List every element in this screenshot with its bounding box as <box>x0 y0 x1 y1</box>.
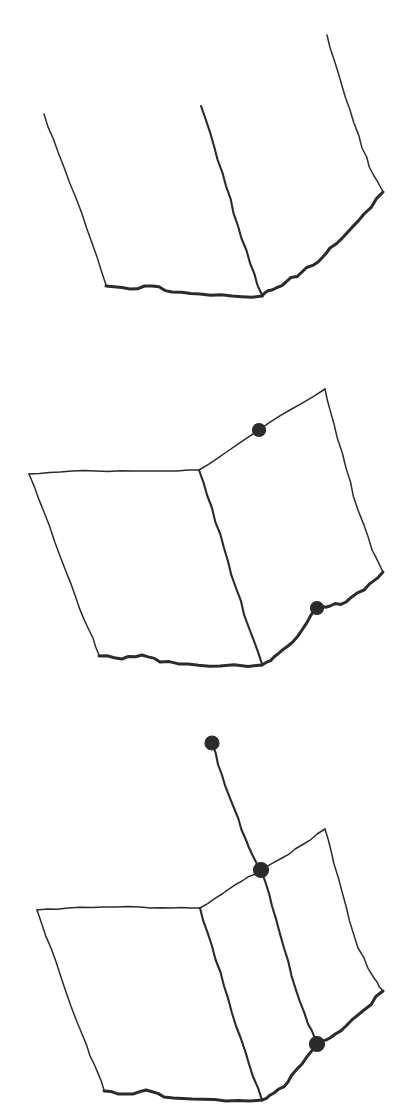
stroke-left-page-outer-edge <box>44 114 106 285</box>
stroke-right-page-bottom-edge <box>262 192 383 296</box>
stroke-middle-page-top-edge <box>200 870 261 908</box>
stroke-outer-page-top-edge <box>261 829 325 870</box>
stroke-right-page-outer-edge <box>325 389 383 572</box>
stroke-left-page-bottom-edge <box>106 286 262 297</box>
panel-2-dots <box>253 424 324 615</box>
sketch-panel-2 <box>0 360 404 700</box>
stroke-spine-edge <box>200 908 262 1100</box>
stroke-turning-page-leading-edge <box>261 870 317 1044</box>
dot-spine-junction <box>254 863 269 878</box>
stroke-left-page-outer-edge <box>37 910 104 1090</box>
sketch-panel-1 <box>0 0 404 340</box>
stroke-left-page-bottom-edge <box>99 655 262 666</box>
stroke-right-page-bottom-edge <box>262 572 383 665</box>
stroke-left-page-top-edge <box>37 907 200 910</box>
panel-2-canvas <box>0 360 404 700</box>
stroke-free-corner-connector <box>212 743 261 870</box>
stroke-outer-page-outer-edge <box>325 829 383 991</box>
dot-free-corner <box>205 736 219 750</box>
panel-3-strokes <box>37 743 383 1101</box>
panel-1-strokes <box>44 35 383 297</box>
stroke-spine-edge <box>199 470 262 664</box>
figure-sheet <box>0 0 404 1106</box>
stroke-right-page-outer-edge <box>327 35 383 192</box>
stroke-spine-edge <box>201 106 262 295</box>
stroke-left-page-bottom-edge <box>104 1090 262 1101</box>
dot-bottom-edge <box>311 602 324 615</box>
panel-3-canvas <box>0 700 404 1106</box>
stroke-left-page-top-edge <box>29 470 199 474</box>
dot-bottom-edge <box>310 1037 325 1052</box>
panel-1-canvas <box>0 0 404 340</box>
dot-top-edge <box>253 424 266 437</box>
stroke-left-page-outer-edge <box>29 474 99 655</box>
sketch-panel-3 <box>0 700 404 1106</box>
panel-2-strokes <box>29 389 383 666</box>
